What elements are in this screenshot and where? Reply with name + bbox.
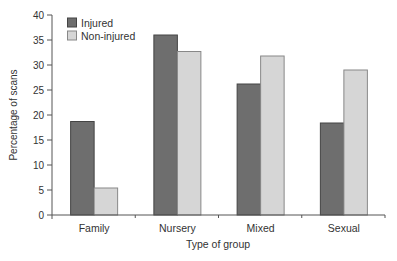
y-tick-label: 40	[33, 10, 45, 21]
x-axis-label: Type of group	[186, 238, 250, 250]
x-axis: FamilyNurseryMixedSexual	[52, 215, 385, 234]
x-tick-label: Sexual	[328, 222, 360, 234]
y-tick-label: 30	[33, 60, 45, 71]
bar-family-non-injured	[94, 188, 118, 215]
bar-mixed-injured	[237, 84, 261, 215]
bar-sexual-injured	[320, 123, 344, 215]
bar-family-injured	[71, 122, 95, 216]
bar-sexual-non-injured	[344, 70, 368, 215]
x-tick-label: Mixed	[247, 222, 275, 234]
y-tick-label: 0	[38, 210, 44, 221]
y-axis: 0510152025303540	[33, 10, 52, 221]
bar-nursery-non-injured	[177, 52, 201, 216]
legend-swatch-injured	[68, 18, 77, 27]
bar-mixed-non-injured	[261, 56, 285, 215]
legend-label: Non-injured	[81, 30, 135, 42]
bar-chart: 0510152025303540 FamilyNurseryMixedSexua…	[0, 0, 397, 261]
bars	[71, 35, 368, 215]
bar-nursery-injured	[154, 35, 178, 215]
y-tick-label: 25	[33, 85, 45, 96]
x-tick-label: Family	[79, 222, 111, 234]
legend-swatch-non-injured	[68, 31, 77, 40]
x-tick-label: Nursery	[159, 222, 197, 234]
y-tick-label: 35	[33, 35, 45, 46]
chart-container: 0510152025303540 FamilyNurseryMixedSexua…	[0, 0, 397, 261]
y-axis-label: Percentage of scans	[8, 69, 19, 160]
y-tick-label: 20	[33, 110, 45, 121]
legend-label: Injured	[81, 17, 113, 29]
y-tick-label: 5	[38, 185, 44, 196]
y-tick-label: 15	[33, 135, 45, 146]
y-tick-label: 10	[33, 160, 45, 171]
legend: InjuredNon-injured	[68, 17, 136, 42]
